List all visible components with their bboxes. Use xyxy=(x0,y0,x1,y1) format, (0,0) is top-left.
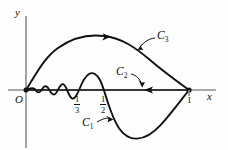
curve-diagram-figure: y x O 1 3 1 2 1 C1 C2 C3 xyxy=(0,0,228,150)
curve-label-c3-sub: 3 xyxy=(165,35,169,44)
diagram-canvas xyxy=(0,0,228,150)
curve-label-c3-base: C xyxy=(157,29,165,41)
tick-label-one-half: 1 2 xyxy=(100,95,106,115)
curve-label-c2-sub: 2 xyxy=(124,71,128,80)
curve-c1-path xyxy=(26,73,189,138)
tick-label-one-third: 1 3 xyxy=(74,95,80,115)
c2-leader-arrow xyxy=(138,80,145,88)
curve-label-c1-sub: 1 xyxy=(90,122,94,131)
fraction-one-third: 1 3 xyxy=(74,95,80,114)
fraction-numerator: 1 xyxy=(100,95,106,104)
curve-label-c2: C2 xyxy=(116,66,127,80)
fraction-one-half: 1 2 xyxy=(100,95,106,114)
y-axis-label: y xyxy=(15,7,20,18)
c3-leader-line xyxy=(140,38,155,47)
c3-direction-arrow xyxy=(102,33,111,40)
fraction-numerator: 1 xyxy=(74,95,80,104)
origin-point xyxy=(24,88,29,93)
tick-label-one: 1 xyxy=(187,96,192,105)
curve-label-c2-base: C xyxy=(116,65,124,77)
curve-label-c3: C3 xyxy=(157,30,168,44)
fraction-denominator: 2 xyxy=(100,106,106,115)
x-axis-label: x xyxy=(207,91,212,102)
origin-label: O xyxy=(15,94,23,105)
curve-label-c1: C1 xyxy=(82,117,93,131)
curve-label-c1-base: C xyxy=(82,116,90,128)
fraction-denominator: 3 xyxy=(74,106,80,115)
